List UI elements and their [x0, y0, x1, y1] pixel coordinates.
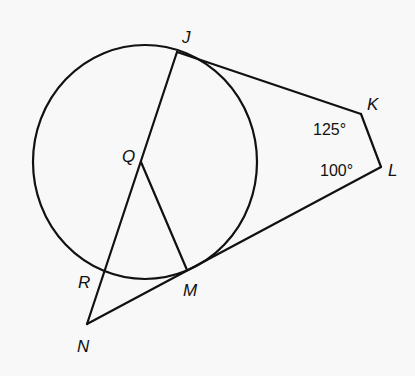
circle-q [33, 45, 257, 279]
geometry-diagram: J K L Q M R N 125° 100° [0, 0, 415, 376]
angle-label-l: 100° [320, 162, 353, 179]
segment-kl [361, 114, 381, 167]
point-label-l: L [388, 161, 397, 180]
tangent-segment-jk [177, 52, 361, 114]
diagram-svg: J K L Q M R N 125° 100° [0, 0, 415, 376]
point-label-n: N [77, 337, 90, 356]
point-label-k: K [367, 95, 379, 114]
angle-label-k: 125° [313, 121, 346, 138]
point-label-j: J [181, 28, 191, 47]
point-label-q: Q [122, 147, 135, 166]
point-label-r: R [78, 273, 90, 292]
point-label-m: M [183, 281, 198, 300]
radius-qm [141, 162, 187, 270]
